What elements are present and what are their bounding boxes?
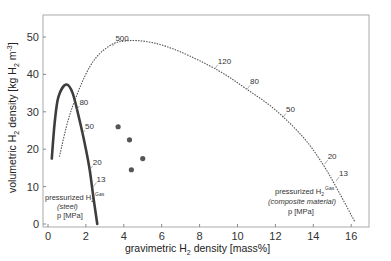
- y-tick-label: 50: [27, 31, 39, 43]
- pressure-label: 13: [96, 175, 105, 184]
- x-tick-label: 0: [45, 230, 51, 242]
- data-point: [127, 137, 132, 142]
- chart-canvas: 0246810121416 01020304050 80502013500120…: [0, 0, 391, 261]
- pressure-label: 13: [339, 169, 348, 178]
- svg-text:(steel): (steel): [57, 202, 78, 211]
- pressure-label: 50: [85, 122, 94, 131]
- svg-text:pressurized H2Gas: pressurized H2Gas: [275, 185, 335, 197]
- y-tick-label: 40: [27, 68, 39, 80]
- x-tick-label: 2: [83, 230, 89, 242]
- hydrogen-density-chart: 0246810121416 01020304050 80502013500120…: [0, 0, 391, 261]
- y-tick-label: 20: [27, 143, 39, 155]
- pressure-label: 20: [93, 158, 102, 167]
- x-tick-label: 16: [345, 230, 357, 242]
- y-tick-label: 30: [27, 106, 39, 118]
- composite-annotation: pressurized H2Gas (composite material) p…: [268, 185, 336, 216]
- data-point: [116, 124, 121, 129]
- pressure-label: 120: [218, 57, 232, 66]
- y-axis-label: volumetric H2 density [kg H2 m-3]: [6, 42, 20, 193]
- svg-text:p [MPa]: p [MPa]: [57, 211, 83, 220]
- svg-text:(composite material): (composite material): [268, 197, 336, 206]
- x-tick-label: 6: [159, 230, 165, 242]
- x-tick-label: 12: [269, 230, 281, 242]
- data-point: [140, 156, 145, 161]
- x-tick-label: 10: [231, 230, 243, 242]
- y-tick-label: 0: [33, 218, 39, 230]
- y-tick-label: 10: [27, 181, 39, 193]
- pressure-label: 500: [115, 34, 129, 43]
- pressure-labels: 8050201350012080502013: [76, 34, 348, 186]
- svg-text:p [MPa]: p [MPa]: [288, 207, 314, 216]
- x-tick-label: 4: [121, 230, 127, 242]
- pressure-label: 20: [328, 152, 337, 161]
- x-axis-label: gravimetric H2 density [mass%]: [125, 242, 270, 256]
- x-tick-label: 8: [197, 230, 203, 242]
- data-point: [129, 167, 134, 172]
- pressure-label: 80: [79, 98, 88, 107]
- x-tick-label: 14: [307, 230, 319, 242]
- pressure-label: 50: [286, 105, 295, 114]
- pressure-label: 80: [250, 77, 259, 86]
- scatter-points: [116, 124, 146, 172]
